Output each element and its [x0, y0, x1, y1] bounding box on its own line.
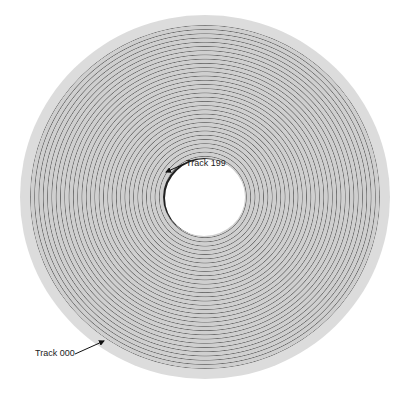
leader-lines: [0, 0, 411, 394]
label-track-000: Track 000: [35, 348, 75, 358]
label-track-199: Track 199: [186, 158, 226, 168]
arrow-track-000: [75, 341, 104, 354]
arrow-track-199: [166, 164, 184, 172]
